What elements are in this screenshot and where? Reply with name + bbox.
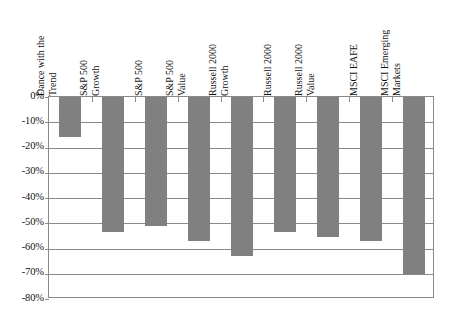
category-label-line: MSCI Emerging xyxy=(379,30,391,96)
bar xyxy=(188,97,210,241)
bar xyxy=(102,97,124,232)
gridline xyxy=(49,274,433,275)
bar xyxy=(231,97,253,256)
category-label-line: Dance with the xyxy=(35,35,47,96)
x-tick-mark xyxy=(349,97,350,102)
y-tick-mark xyxy=(45,274,49,275)
bar xyxy=(274,97,296,232)
category-label-line: S&P 500 xyxy=(133,60,145,96)
category-label-line: Russell 2000 xyxy=(262,44,274,96)
y-tick-mark xyxy=(45,122,49,123)
x-tick-mark xyxy=(92,97,93,102)
y-tick-mark xyxy=(45,173,49,174)
category-label-line: S&P 500 xyxy=(78,60,90,96)
y-tick-mark xyxy=(45,148,49,149)
category-label-line: Russell 2000 xyxy=(293,44,305,96)
bar xyxy=(59,97,81,137)
category-label-line: MSCI EAFE xyxy=(348,44,360,96)
x-tick-mark xyxy=(178,97,179,102)
x-tick-mark xyxy=(263,97,264,102)
category-label-line: Markets xyxy=(391,30,403,96)
chart-page: 0%-10%-20%-30%-40%-50%-60%-70%-80% Dance… xyxy=(0,0,449,322)
x-tick-mark xyxy=(306,97,307,102)
y-tick-mark xyxy=(45,223,49,224)
bar xyxy=(145,97,167,226)
category-label-line: Trend xyxy=(47,35,59,96)
y-tick-mark xyxy=(45,249,49,250)
plot-area xyxy=(48,96,434,298)
category-label-line: Growth xyxy=(90,60,102,96)
x-tick-mark xyxy=(221,97,222,102)
category-label-line: Value xyxy=(176,60,188,96)
category-label-line: Russell 2000 xyxy=(207,44,219,96)
y-tick-mark xyxy=(45,97,49,98)
category-label-line: S&P 500 xyxy=(164,60,176,96)
y-tick-mark xyxy=(45,198,49,199)
bar xyxy=(403,97,425,274)
bar xyxy=(360,97,382,241)
x-tick-mark xyxy=(392,97,393,102)
bar xyxy=(317,97,339,237)
y-tick-mark xyxy=(45,299,49,300)
x-tick-mark xyxy=(135,97,136,102)
category-label-line: Growth xyxy=(219,44,231,96)
category-label-line: Value xyxy=(305,44,317,96)
